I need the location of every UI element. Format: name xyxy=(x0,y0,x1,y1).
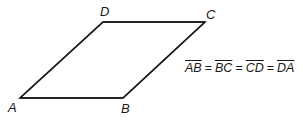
vertex-label-d: D xyxy=(100,4,109,19)
equals-sign: = xyxy=(267,61,274,75)
vertex-label-b: B xyxy=(121,101,130,116)
equals-sign: = xyxy=(235,61,242,75)
segment-ab: AB xyxy=(185,61,202,75)
congruence-equation: AB=BC=CD=DA xyxy=(185,61,294,75)
vertex-label-a: A xyxy=(7,100,17,115)
segment-da: DA xyxy=(277,61,294,75)
equals-sign: = xyxy=(205,61,212,75)
side-DA xyxy=(20,22,103,98)
segment-bc: BC xyxy=(215,61,232,75)
side-BC xyxy=(123,22,205,98)
vertex-label-c: C xyxy=(206,7,216,22)
rhombus-ABCD xyxy=(20,22,205,98)
segment-cd: CD xyxy=(246,61,264,75)
